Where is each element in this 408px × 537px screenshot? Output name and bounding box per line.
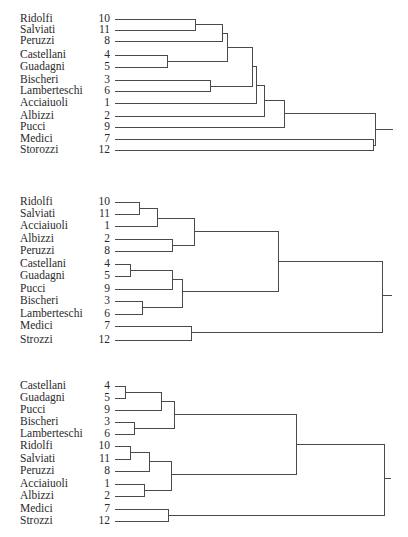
merge-link <box>115 485 145 497</box>
leaf-number-label: 12 <box>88 514 110 526</box>
leaf-name-label: Castellani <box>20 257 66 269</box>
merge-link <box>115 423 135 435</box>
leaf-number-label: 6 <box>88 427 110 439</box>
leaf-name-label: Medici <box>20 502 53 514</box>
merge-link <box>115 302 143 315</box>
leaf-number-label: 10 <box>88 439 110 451</box>
merge-link <box>115 25 223 42</box>
merge-link <box>115 81 211 92</box>
merge-link <box>115 20 196 31</box>
leaf-name-label: Castellani <box>20 48 66 60</box>
leaf-number-label: 9 <box>88 403 110 415</box>
leaf-name-label: Guadagni <box>20 60 65 72</box>
leaf-name-label: Salviati <box>20 207 55 219</box>
merge-link <box>115 327 192 341</box>
leaf-name-label: Peruzzi <box>20 244 54 256</box>
leaf-name-label: Peruzzi <box>20 34 54 46</box>
leaf-number-label: 6 <box>88 84 110 96</box>
leaf-name-label: Ridolfi <box>20 195 53 207</box>
leaf-name-label: Albizzi <box>20 489 54 501</box>
merge-link <box>115 387 126 399</box>
leaf-name-label: Storozzi <box>20 143 58 155</box>
leaf-number-label: 1 <box>88 477 110 489</box>
merge-link <box>115 56 168 68</box>
merge-link <box>182 232 279 292</box>
leaf-number-label: 4 <box>88 257 110 269</box>
leaf-name-label: Pucci <box>20 403 46 415</box>
leaf-name-label: Salviati <box>20 452 55 464</box>
leaf-name-label: Strozzi <box>20 514 53 526</box>
leaf-number-label: 8 <box>88 34 110 46</box>
leaf-name-label: Acciaiuoli <box>20 477 68 489</box>
leaf-number-label: 9 <box>88 282 110 294</box>
leaf-number-label: 9 <box>88 120 110 132</box>
leaf-name-label: Lamberteschi <box>20 307 83 319</box>
merge-link <box>115 265 131 277</box>
merge-link <box>115 271 173 290</box>
merge-link <box>142 280 183 308</box>
leaf-name-label: Lamberteschi <box>20 427 83 439</box>
leaf-name-label: Pucci <box>20 282 46 294</box>
leaf-number-label: 11 <box>88 452 110 464</box>
merge-link <box>115 67 257 104</box>
leaf-name-label: Strozzi <box>20 333 53 345</box>
dendrogram-1 <box>115 20 393 151</box>
dendrogram-2 <box>115 203 392 341</box>
merge-link <box>115 510 169 522</box>
merge-link <box>115 140 374 151</box>
leaf-name-label: Bischeri <box>20 294 58 306</box>
leaf-number-label: 4 <box>88 48 110 60</box>
leaf-number-label: 3 <box>88 415 110 427</box>
dendrogram-3 <box>115 387 391 522</box>
leaf-number-label: 2 <box>88 232 110 244</box>
merge-link <box>115 86 265 117</box>
leaf-number-label: 1 <box>88 219 110 231</box>
merge-link <box>167 34 228 62</box>
leaf-number-label: 11 <box>88 207 110 219</box>
merge-link <box>115 209 158 227</box>
merge-link <box>191 262 383 333</box>
merge-link <box>134 402 175 429</box>
merge-link <box>115 453 150 472</box>
merge-link <box>144 462 172 491</box>
leaf-name-label: Peruzzi <box>20 464 54 476</box>
leaf-name-label: Lamberteschi <box>20 84 83 96</box>
leaf-number-label: 12 <box>88 143 110 155</box>
merge-link <box>115 101 285 128</box>
leaf-number-label: 2 <box>88 489 110 501</box>
leaf-number-label: 1 <box>88 96 110 108</box>
leaf-name-label: Acciaiuoli <box>20 219 68 231</box>
merge-link <box>210 48 253 87</box>
merge-link <box>284 114 376 146</box>
leaf-name-label: Bischeri <box>20 415 58 427</box>
leaf-number-label: 4 <box>88 379 110 391</box>
leaf-name-label: Pucci <box>20 120 46 132</box>
merge-link <box>157 219 195 246</box>
leaf-number-label: 5 <box>88 269 110 281</box>
leaf-name-label: Acciaiuoli <box>20 96 68 108</box>
merge-link <box>115 393 162 411</box>
leaf-name-label: Albizzi <box>20 232 54 244</box>
leaf-name-label: Guadagni <box>20 391 65 403</box>
leaf-name-label: Medici <box>20 319 53 331</box>
leaf-name-label: Ridolfi <box>20 439 53 451</box>
leaf-number-label: 5 <box>88 60 110 72</box>
merge-link <box>115 447 131 460</box>
leaf-number-label: 7 <box>88 502 110 514</box>
leaf-name-label: Castellani <box>20 379 66 391</box>
merge-link <box>115 240 173 252</box>
leaf-number-label: 6 <box>88 307 110 319</box>
leaf-number-label: 8 <box>88 244 110 256</box>
merge-link <box>115 203 140 215</box>
merge-link <box>168 445 385 516</box>
leaf-number-label: 5 <box>88 391 110 403</box>
leaf-number-label: 7 <box>88 319 110 331</box>
leaf-number-label: 3 <box>88 294 110 306</box>
leaf-number-label: 10 <box>88 195 110 207</box>
merge-link <box>171 415 297 475</box>
leaf-number-label: 12 <box>88 333 110 345</box>
leaf-number-label: 8 <box>88 464 110 476</box>
leaf-name-label: Guadagni <box>20 269 65 281</box>
